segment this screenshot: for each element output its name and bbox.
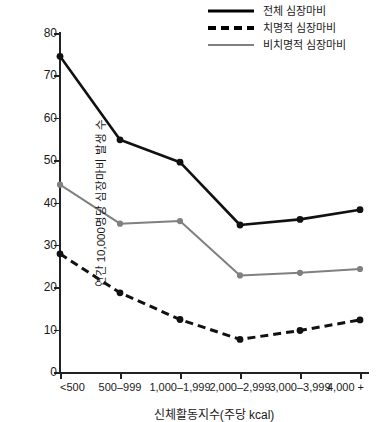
- y-tick-label: 70: [44, 68, 57, 82]
- y-axis-title: 연간 10,000명당 심장마비 발생 수: [92, 118, 108, 287]
- y-tick-label: 30: [44, 238, 57, 252]
- data-point: [177, 218, 183, 224]
- x-tick: [120, 372, 122, 379]
- y-tick-label: 20: [44, 280, 57, 294]
- data-point: [57, 250, 64, 257]
- y-tick-label: 80: [44, 26, 57, 40]
- legend-label-total: 전체 심장마비: [263, 5, 326, 17]
- data-point: [57, 182, 63, 188]
- x-tick-label: 1,000–1,999: [149, 381, 210, 393]
- data-point: [297, 270, 303, 276]
- plot-area: 01020304050607080 <500500–9991,000–1,999…: [60, 33, 368, 372]
- x-tick-label: 500–999: [99, 381, 142, 393]
- legend-label-fatal: 치명적 심장마비: [263, 22, 336, 34]
- y-tick-label: 60: [44, 111, 57, 125]
- data-point: [117, 289, 124, 296]
- data-point: [177, 159, 184, 166]
- x-tick-label: 2,000–2,999: [209, 381, 270, 393]
- x-tick: [300, 372, 302, 379]
- y-tick-label: 40: [44, 196, 57, 210]
- data-point: [237, 336, 244, 343]
- x-tick: [180, 372, 182, 379]
- x-tick-label: <500: [60, 381, 85, 393]
- figure-caption: [4, 411, 386, 420]
- data-point: [357, 206, 364, 213]
- data-point: [177, 316, 184, 323]
- x-tick: [360, 372, 362, 379]
- y-tick-label: 50: [44, 153, 57, 167]
- x-tick: [60, 372, 62, 379]
- y-tick-label: 10: [44, 323, 57, 337]
- x-tick: [240, 372, 242, 379]
- data-point: [357, 266, 363, 272]
- solid-black-line-icon: [205, 5, 257, 17]
- data-point: [57, 53, 64, 60]
- x-tick-label: 4,000 +: [327, 381, 364, 393]
- data-point: [117, 136, 124, 143]
- data-point: [237, 222, 244, 229]
- x-axis-line: [59, 372, 369, 374]
- data-point: [117, 221, 123, 227]
- data-point: [297, 327, 304, 334]
- dashed-black-line-icon: [205, 22, 257, 34]
- legend-item-total: 전체 심장마비: [205, 2, 390, 19]
- data-point: [237, 272, 243, 278]
- x-tick-label: 3,000–3,999: [269, 381, 330, 393]
- data-point: [297, 216, 304, 223]
- y-tick-label: 0: [50, 365, 57, 379]
- data-point: [357, 317, 364, 324]
